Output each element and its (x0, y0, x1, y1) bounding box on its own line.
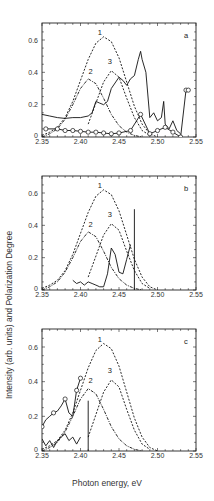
polarization-marker (75, 388, 79, 392)
x-tick-label: 2.45 (112, 452, 126, 459)
polarization-marker (109, 132, 113, 136)
series-1 (42, 344, 158, 452)
panel-letter: a (184, 31, 189, 40)
plot-frame (42, 329, 196, 451)
x-tick-label: 2.45 (112, 138, 126, 145)
figure-canvas: 2.352.402.452.502.5500.20.40.6123a2.352.… (0, 0, 214, 501)
series-polarization-degree (42, 378, 81, 427)
curve-label-1: 1 (98, 28, 102, 37)
polarization-marker (148, 132, 152, 136)
series-3 (88, 71, 150, 136)
panel-letter: c (184, 337, 188, 346)
series-experimental-intensity (42, 434, 81, 448)
polarization-marker (128, 128, 132, 132)
panel-letter: b (184, 184, 188, 193)
polarization-marker (138, 112, 142, 116)
plot-frame (42, 176, 196, 290)
polarization-marker (51, 411, 55, 415)
x-tick-label: 2.45 (112, 291, 126, 298)
y-tick-label: 0.2 (28, 413, 38, 420)
y-tick-label: 0 (34, 285, 38, 292)
y-tick-label: 0.6 (28, 37, 38, 44)
y-tick-label: 0.2 (28, 254, 38, 261)
series-1 (42, 190, 158, 290)
polarization-marker (71, 128, 75, 132)
y-tick-label: 0.4 (28, 69, 38, 76)
x-tick-label: 2.40 (74, 291, 88, 298)
polarization-marker (117, 131, 121, 135)
x-tick-label: 2.50 (151, 452, 165, 459)
curve-label-2: 2 (88, 220, 92, 229)
y-tick-label: 0.6 (28, 344, 38, 351)
polarization-marker (179, 135, 183, 139)
polarization-marker (86, 130, 90, 134)
curve-label-2: 2 (88, 376, 92, 385)
x-tick-label: 2.55 (189, 138, 203, 145)
polarization-marker (63, 397, 67, 401)
panel-c: 2.352.402.452.502.5500.20.40.6123c (28, 329, 203, 459)
polarization-marker (44, 127, 48, 131)
polarization-marker (102, 131, 106, 135)
x-tick-label: 2.50 (151, 138, 165, 145)
x-axis-title: Photon energy, eV (0, 478, 214, 488)
series-2 (42, 232, 142, 290)
x-tick-label: 2.35 (35, 291, 49, 298)
series-3 (88, 380, 150, 449)
x-tick-label: 2.40 (74, 452, 88, 459)
x-tick-label: 2.35 (35, 452, 49, 459)
y-axis-title: Intensity (arb. units) and Polarization … (2, 150, 16, 480)
curve-label-2: 2 (88, 67, 92, 76)
polarization-marker (163, 125, 167, 129)
polarization-marker (94, 130, 98, 134)
curve-label-3: 3 (108, 57, 112, 66)
y-tick-label: 0.6 (28, 190, 38, 197)
polarization-marker (40, 425, 44, 429)
x-tick-label: 2.50 (151, 291, 165, 298)
panel-b: 2.352.402.452.502.5500.20.40.6123b (28, 176, 203, 298)
y-tick-label: 0 (34, 446, 38, 453)
y-tick-label: 0 (34, 132, 38, 139)
x-tick-label: 2.55 (189, 291, 203, 298)
curve-label-3: 3 (108, 366, 112, 375)
polarization-marker (78, 129, 82, 133)
polarization-marker (55, 127, 59, 131)
polarization-marker (78, 376, 82, 380)
polarization-marker (155, 128, 159, 132)
curve-label-3: 3 (108, 210, 112, 219)
y-tick-label: 0.4 (28, 378, 38, 385)
series-3 (88, 224, 150, 289)
y-tick-label: 0.2 (28, 101, 38, 108)
x-tick-label: 2.40 (74, 138, 88, 145)
x-tick-label: 2.55 (189, 452, 203, 459)
curve-label-1: 1 (98, 181, 102, 190)
polarization-marker (186, 88, 190, 92)
y-tick-label: 0.4 (28, 222, 38, 229)
polarization-marker (63, 128, 67, 132)
x-tick-label: 2.35 (35, 138, 49, 145)
polarization-marker (171, 130, 175, 134)
curve-label-1: 1 (98, 335, 102, 344)
panel-a: 2.352.402.452.502.5500.20.40.6123a (28, 23, 203, 145)
y-axis-title-text: Intensity (arb. units) and Polarization … (4, 231, 14, 399)
